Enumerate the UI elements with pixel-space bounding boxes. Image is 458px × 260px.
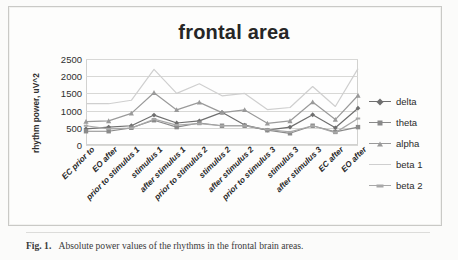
data-point bbox=[84, 125, 88, 127]
data-point bbox=[310, 99, 315, 104]
data-point bbox=[288, 131, 292, 133]
legend-marker-diamond-icon bbox=[369, 97, 391, 107]
data-point bbox=[197, 100, 202, 105]
chart-legend: deltathetaalphabeta 1beta 2 bbox=[369, 91, 458, 196]
data-point bbox=[356, 118, 360, 120]
data-point bbox=[288, 125, 293, 130]
legend-label: beta 2 bbox=[396, 180, 422, 191]
legend-marker-dash-icon bbox=[369, 181, 391, 191]
data-point bbox=[129, 127, 133, 129]
y-axis-tick-label: 500 bbox=[66, 122, 82, 133]
data-point bbox=[265, 129, 269, 131]
series-lines bbox=[86, 59, 358, 145]
data-point bbox=[106, 128, 110, 130]
legend-item-beta-2[interactable]: beta 2 bbox=[369, 175, 458, 196]
legend-item-theta[interactable]: theta bbox=[369, 112, 458, 133]
data-point bbox=[151, 90, 156, 95]
legend-item-alpha[interactable]: alpha bbox=[369, 133, 458, 154]
data-point bbox=[356, 125, 360, 129]
data-point bbox=[333, 132, 337, 134]
data-point bbox=[310, 125, 314, 127]
legend-label: beta 1 bbox=[396, 159, 422, 170]
data-point bbox=[174, 124, 178, 126]
y-axis-tick-label: 2000 bbox=[61, 71, 82, 82]
data-point bbox=[197, 123, 201, 125]
y-axis-tick-label: 1500 bbox=[61, 88, 82, 99]
series-line-beta-1 bbox=[86, 69, 358, 110]
series-line-alpha bbox=[86, 93, 358, 124]
y-axis-title-label: rhythm power, uV^2 bbox=[31, 63, 41, 153]
data-point bbox=[152, 118, 156, 120]
data-point bbox=[84, 129, 88, 133]
y-axis-tick-label: 1000 bbox=[61, 105, 82, 116]
y-axis-tick-label: 0 bbox=[77, 140, 82, 151]
data-point bbox=[220, 125, 224, 127]
data-point bbox=[310, 112, 315, 117]
legend-marker-none-icon bbox=[369, 160, 391, 170]
data-point bbox=[355, 93, 360, 98]
caption-text: Absolute power values of the rhythms in … bbox=[59, 240, 304, 251]
y-axis-title: rhythm power, uV^2 bbox=[31, 0, 45, 63]
figure-page: frontal area rhythm power, uV^2 05001000… bbox=[0, 0, 458, 260]
legend-item-beta-1[interactable]: beta 1 bbox=[369, 154, 458, 175]
legend-label: theta bbox=[396, 117, 417, 128]
legend-label: alpha bbox=[396, 138, 419, 149]
figure-divider bbox=[26, 232, 430, 233]
data-point bbox=[152, 113, 157, 118]
legend-item-delta[interactable]: delta bbox=[369, 91, 458, 112]
y-axis-tick-label: 2500 bbox=[61, 54, 82, 65]
legend-marker-triangle-icon bbox=[369, 139, 391, 149]
figure-frame: frontal area rhythm power, uV^2 05001000… bbox=[8, 6, 442, 226]
legend-label: delta bbox=[396, 96, 417, 107]
figure-caption: Fig. 1. Absolute power values of the rhy… bbox=[26, 240, 436, 251]
legend-marker-square-icon bbox=[369, 118, 391, 128]
data-point bbox=[242, 125, 246, 127]
plot-area: 05001000150020002500 bbox=[86, 59, 358, 145]
chart-title: frontal area bbox=[9, 21, 441, 44]
caption-label: Fig. 1. bbox=[26, 240, 51, 251]
x-axis-labels: EC prior toEO afterprior to stimulus 1st… bbox=[86, 145, 358, 225]
